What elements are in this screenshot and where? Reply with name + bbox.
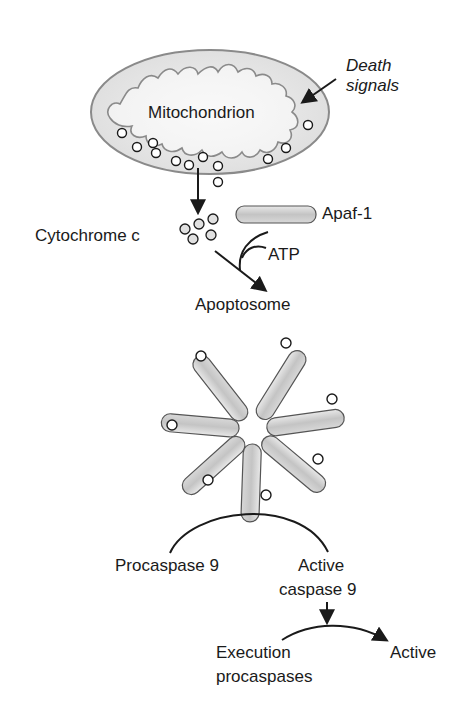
cytochrome-c-cluster bbox=[180, 214, 218, 244]
apoptosome-wheel bbox=[161, 338, 346, 522]
label-cytochrome-c: Cytochrome c bbox=[35, 226, 140, 246]
label-procaspase9: Procaspase 9 bbox=[115, 556, 219, 576]
label-active-caspase9-2: caspase 9 bbox=[279, 580, 357, 600]
execution-activation-arc bbox=[282, 626, 386, 640]
label-execution-procaspases-1: Execution bbox=[216, 643, 291, 663]
label-apaf1: Apaf-1 bbox=[322, 204, 372, 224]
label-death-signals-1: Death bbox=[346, 56, 391, 76]
label-mitochondrion: Mitochondrion bbox=[148, 103, 255, 123]
label-atp: ATP bbox=[268, 245, 300, 265]
label-active: Active bbox=[390, 643, 436, 663]
label-apoptosome: Apoptosome bbox=[195, 295, 290, 315]
label-death-signals-2: signals bbox=[346, 76, 399, 96]
apaf1-rod bbox=[236, 206, 316, 223]
atp-curve bbox=[240, 232, 268, 270]
label-execution-procaspases-2: procaspases bbox=[216, 667, 312, 687]
label-active-caspase9-1: Active bbox=[298, 556, 344, 576]
